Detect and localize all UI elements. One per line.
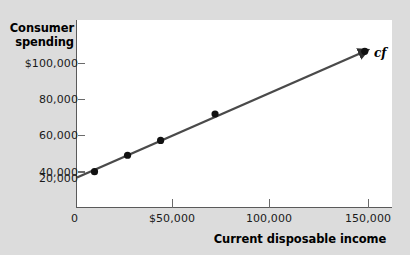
series-label-cf: cf xyxy=(374,46,386,60)
chart-figure: $100,000 80,000 60,000 40,000 20,000 0 $… xyxy=(0,0,410,255)
y-tick-label-100000: $100,000 xyxy=(25,57,78,70)
y-tick-mark-40000 xyxy=(78,171,85,172)
y-axis-title: Consumer spending xyxy=(6,22,74,49)
x-axis-line xyxy=(76,207,392,208)
x-tick-label-150000: 150,000 xyxy=(318,212,410,225)
y-tick-mark-100000 xyxy=(78,63,85,64)
x-tick-label-100000: 100,000 xyxy=(219,212,319,225)
y-tick-label-20000: 20,000 xyxy=(39,172,78,185)
y-axis-title-line1: Consumer xyxy=(6,22,74,36)
y-tick-label-80000: 80,000 xyxy=(39,93,78,106)
x-tick-label-50000: $50,000 xyxy=(122,212,222,225)
plot-area xyxy=(77,20,392,208)
y-tick-mark-80000 xyxy=(78,99,85,100)
x-tick-mark-150000 xyxy=(368,199,369,208)
x-axis-title: Current disposable income xyxy=(200,232,400,246)
x-tick-mark-50000 xyxy=(172,199,173,208)
y-axis-title-line2: spending xyxy=(6,36,74,50)
y-tick-mark-60000 xyxy=(78,135,85,136)
x-tick-mark-100000 xyxy=(269,199,270,208)
y-tick-label-60000: 60,000 xyxy=(39,129,78,142)
y-tick-label-0: 0 xyxy=(71,212,78,225)
